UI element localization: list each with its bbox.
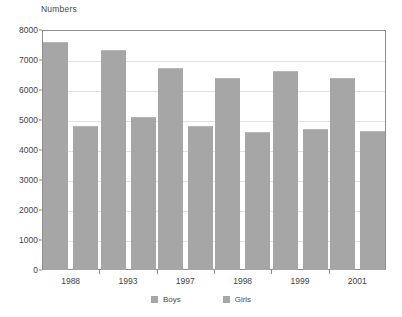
- legend-entry-boys[interactable]: Boys: [151, 295, 181, 304]
- x-axis-tick-mark: [99, 270, 100, 274]
- x-axis-tick-label: 1993: [108, 276, 148, 286]
- legend-swatch-icon: [151, 296, 158, 303]
- bar-chart: Numbers 01000200030004000500060007000800…: [0, 0, 402, 317]
- y-axis-caption: Numbers: [41, 4, 77, 14]
- bar-boys-1993: [101, 50, 126, 271]
- y-axis-tick-label: 2000: [4, 205, 38, 215]
- y-axis-tick-label: 6000: [4, 85, 38, 95]
- x-axis-tick-mark: [214, 270, 215, 274]
- y-axis-tick-label: 0: [4, 265, 38, 275]
- x-axis-tick-mark: [329, 270, 330, 274]
- x-axis-tick-label: 1998: [223, 276, 263, 286]
- y-axis-tick-label: 3000: [4, 175, 38, 185]
- bars-layer: [42, 30, 386, 270]
- y-axis-tick-label: 4000: [4, 145, 38, 155]
- x-axis-tick-label: 2001: [337, 276, 377, 286]
- x-axis-tick-label: 1988: [51, 276, 91, 286]
- bar-boys-1999: [273, 71, 298, 271]
- bar-girls-2001: [360, 131, 385, 271]
- legend-entry-girls[interactable]: Girls: [223, 295, 251, 304]
- y-axis-tick-label: 1000: [4, 235, 38, 245]
- bar-girls-1997: [188, 126, 213, 270]
- y-axis-tick-label: 7000: [4, 55, 38, 65]
- x-axis-tick-label: 1999: [280, 276, 320, 286]
- bar-boys-2001: [330, 78, 355, 270]
- y-axis-tick-label: 5000: [4, 115, 38, 125]
- y-axis-tick-label: 8000: [4, 25, 38, 35]
- legend-swatch-icon: [223, 296, 230, 303]
- bar-boys-1998: [215, 78, 240, 270]
- bar-girls-1988: [73, 126, 98, 270]
- bar-girls-1999: [303, 129, 328, 270]
- chart-legend: BoysGirls: [0, 295, 402, 304]
- legend-label: Boys: [163, 295, 181, 304]
- bar-boys-1988: [43, 42, 68, 270]
- bar-girls-1998: [245, 132, 270, 270]
- bar-girls-1993: [131, 117, 156, 270]
- x-axis-tick-label: 1997: [165, 276, 205, 286]
- legend-label: Girls: [235, 295, 251, 304]
- x-axis-tick-mark: [157, 270, 158, 274]
- x-axis-tick-mark: [271, 270, 272, 274]
- bar-boys-1997: [158, 68, 183, 271]
